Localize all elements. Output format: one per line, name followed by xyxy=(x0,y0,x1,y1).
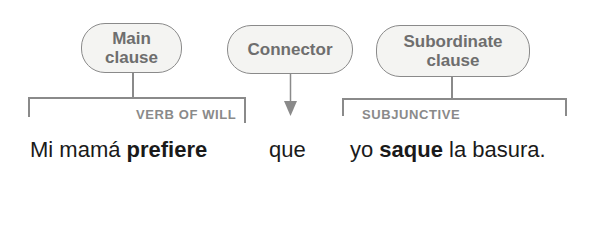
subordinate-clause-bracket-right xyxy=(565,98,567,116)
connector-word: que xyxy=(269,137,306,163)
subordinate-clause-bracket-top xyxy=(342,98,567,100)
main-clause-text: Mi mamá prefiere xyxy=(30,137,207,163)
subordinate-clause-stem xyxy=(451,77,453,99)
subjunctive-label: SUBJUNCTIVE xyxy=(362,107,460,122)
subordinate-subject: yo xyxy=(350,137,379,162)
subordinate-clause-bracket-left xyxy=(342,98,344,116)
subjunctive-verb-word: saque xyxy=(379,137,443,162)
main-clause-subject: Mi mamá xyxy=(30,137,127,162)
subordinate-clause-text: yo saque la basura. xyxy=(350,137,546,163)
subordinate-object: la basura. xyxy=(443,137,546,162)
verb-of-will-label: VERB OF WILL xyxy=(136,107,236,122)
verb-of-will-word: prefiere xyxy=(127,137,208,162)
